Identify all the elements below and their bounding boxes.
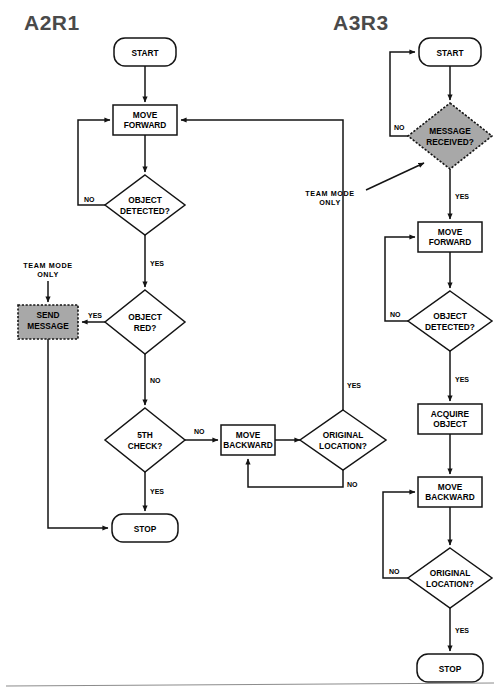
chart-title-a2r1: A2R1 <box>24 11 80 34</box>
note-r-team-line2: ONLY <box>319 198 341 207</box>
edge-label-l-red-no: NO <box>150 377 161 384</box>
edge-label-l-det-yes: YES <box>150 260 164 267</box>
edge-label-r-det-no: NO <box>390 311 401 318</box>
node-r-acq-label1: ACQUIRE <box>431 409 470 419</box>
node-r-fwd-label1: MOVE <box>438 227 463 237</box>
note-l-team-line2: ONLY <box>37 270 59 279</box>
edge-label-l-det-no: NO <box>84 196 95 203</box>
node-l-send-label1: SEND <box>36 310 59 320</box>
edge-label-r-det-yes: YES <box>455 376 469 383</box>
edge-l-orig-yes <box>181 120 343 410</box>
edge-label-l-red-yes: YES <box>88 312 102 319</box>
edge-label-r-msg-no: NO <box>394 124 405 131</box>
node-r-acq-label2: OBJECT <box>433 419 467 429</box>
node-r-stop-label: STOP <box>439 664 462 674</box>
edge-label-l-orig-no: NO <box>347 481 358 488</box>
node-r-det-label1: OBJECT <box>433 311 467 321</box>
flowchart-canvas: A2R1 START MOVE FORWARD OBJECT DETECTED?… <box>0 0 500 696</box>
edge-l-send-stop <box>48 339 108 528</box>
edge-l-orig-no <box>248 459 343 487</box>
node-r-fwd-label2: FORWARD <box>429 237 472 247</box>
edge-label-l-5th-yes: YES <box>150 488 164 495</box>
edge-label-l-orig-yes: YES <box>347 382 361 389</box>
node-l-det-label1: OBJECT <box>128 195 162 205</box>
node-l-stop-label: STOP <box>134 524 157 534</box>
node-l-5th-label1: 5TH <box>137 430 153 440</box>
edge-r-orig-no <box>383 492 415 578</box>
note-l-team-line1: TEAM MODE <box>23 261 72 270</box>
node-r-bwd-label2: BACKWARD <box>425 492 474 502</box>
node-l-orig-label2: LOCATION? <box>319 441 367 451</box>
node-l-orig-label1: ORIGINAL <box>323 430 364 440</box>
node-l-5th-label2: CHECK? <box>128 441 163 451</box>
node-r-orig-label2: LOCATION? <box>426 579 474 589</box>
edge-l-det-no <box>78 120 110 205</box>
edge-label-r-orig-no: NO <box>389 568 400 575</box>
node-l-det-label2: DETECTED? <box>120 206 170 216</box>
node-l-bwd-label2: BACKWARD <box>223 440 272 450</box>
node-l-fwd-label2: FORWARD <box>124 120 167 130</box>
node-l-red-label2: RED? <box>134 323 157 333</box>
node-r-start-label: START <box>436 48 463 58</box>
edge-r-team-note <box>366 163 424 190</box>
node-r-msg-label2: RECEIVED? <box>426 137 473 147</box>
edge-label-l-5th-no: NO <box>194 428 205 435</box>
node-l-bwd-label1: MOVE <box>236 430 261 440</box>
node-l-red-label1: OBJECT <box>128 312 162 322</box>
note-r-team-line1: TEAM MODE <box>305 189 354 198</box>
node-l-send-label2: MESSAGE <box>27 321 69 331</box>
chart-title-a3r3: A3R3 <box>333 11 389 34</box>
footer-rule <box>6 683 494 686</box>
edge-label-r-msg-yes: YES <box>455 193 469 200</box>
edge-label-r-orig-yes: YES <box>455 627 469 634</box>
edge-r-det-no <box>385 237 415 321</box>
node-l-start-label: START <box>131 48 158 58</box>
flowchart-svg: A2R1 START MOVE FORWARD OBJECT DETECTED?… <box>0 0 500 696</box>
node-l-fwd-label1: MOVE <box>133 110 158 120</box>
node-r-msg-label1: MESSAGE <box>429 126 471 136</box>
node-r-bwd-label1: MOVE <box>438 482 463 492</box>
node-r-orig-label1: ORIGINAL <box>430 568 471 578</box>
node-r-det-label2: DETECTED? <box>425 322 475 332</box>
